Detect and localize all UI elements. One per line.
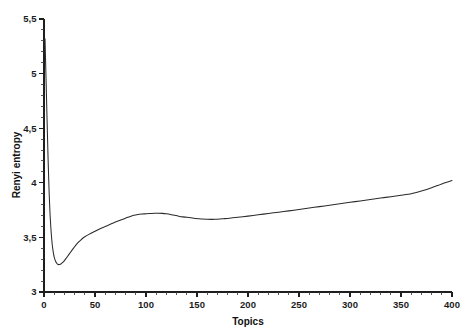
x-tick-label: 0 [41,299,46,310]
y-tick-label: 4,5 [23,123,37,134]
x-tick-label: 300 [342,299,358,310]
x-tick-label: 50 [90,299,101,310]
chart-figure: 33,544,555,5 050100150200250300350400 To… [0,0,474,334]
y-tick-label: 5,5 [23,13,37,24]
x-tick-label: 350 [393,299,409,310]
y-tick-label: 5 [31,68,37,79]
x-tick-label: 200 [240,299,256,310]
y-tick-label: 3,5 [23,232,37,243]
chart-background [0,0,474,334]
x-axis-title: Topics [232,316,264,327]
x-tick-label: 250 [291,299,307,310]
x-tick-label: 100 [138,299,154,310]
x-tick-label: 400 [444,299,460,310]
y-axis-title: Renyi entropy [11,131,22,198]
x-tick-label: 150 [189,299,205,310]
y-tick-label: 4 [31,177,37,188]
renyi-entropy-line-chart: 33,544,555,5 050100150200250300350400 To… [0,0,474,334]
y-tick-label: 3 [31,286,36,297]
